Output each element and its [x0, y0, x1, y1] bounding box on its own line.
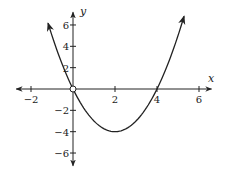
y-axis-label: y [79, 5, 87, 18]
y-tick-label: −2 [54, 105, 69, 116]
x-axis-label: x [208, 72, 215, 85]
y-tick-label: 6 [63, 20, 69, 31]
y-tick-label: −4 [54, 127, 69, 138]
x-tick-label: −2 [24, 94, 39, 105]
y-tick-label: −6 [54, 148, 69, 159]
x-tick-label: 6 [196, 94, 202, 105]
x-tick-label: 4 [154, 94, 160, 105]
parabola-graph: −2246642−2−4−6 x y [0, 0, 227, 174]
axes [16, 12, 211, 166]
x-tick-label: 2 [112, 94, 118, 105]
open-circle-marker [70, 86, 76, 92]
y-tick-label: 4 [63, 41, 69, 52]
